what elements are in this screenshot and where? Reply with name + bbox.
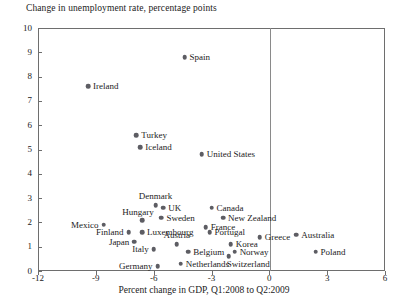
y-tick-mark xyxy=(38,198,42,199)
data-point-label: Austria xyxy=(164,231,191,240)
y-tick-mark xyxy=(38,52,42,53)
data-point xyxy=(151,247,156,252)
data-point-label: Netherlands xyxy=(186,259,229,268)
y-tick-mark xyxy=(38,247,42,248)
data-point xyxy=(182,55,187,60)
data-point-label: Greece xyxy=(265,232,290,241)
data-point-label: Germany xyxy=(119,262,153,271)
y-tick-label: 4 xyxy=(10,169,32,178)
data-point-label: Belgium xyxy=(193,247,224,256)
data-point-label: Canada xyxy=(217,203,244,212)
data-point-label: Norway xyxy=(240,247,269,256)
data-point-label: Iceland xyxy=(145,143,171,152)
y-tick-label: 8 xyxy=(10,72,32,81)
data-point-label: Portugal xyxy=(215,228,246,237)
data-point xyxy=(203,225,208,230)
data-point xyxy=(159,215,164,220)
x-tick-label: -6 xyxy=(139,274,169,283)
data-point xyxy=(86,84,91,89)
x-tick-label: -9 xyxy=(81,274,111,283)
y-tick-label: 6 xyxy=(10,121,32,130)
data-point xyxy=(209,206,214,211)
data-point xyxy=(221,215,226,220)
data-point-label: Hungary xyxy=(122,207,154,216)
chart-title: Change in unemployment rate, percentage … xyxy=(26,3,217,13)
data-point-label: Finland xyxy=(96,228,124,237)
data-point xyxy=(313,249,318,254)
data-point xyxy=(186,249,191,254)
data-point xyxy=(140,218,145,223)
data-point xyxy=(178,261,183,266)
y-tick-label: 2 xyxy=(10,218,32,227)
data-point-label: Turkey xyxy=(141,130,167,139)
y-tick-label: 9 xyxy=(10,48,32,57)
data-point-label: Mexico xyxy=(71,220,99,229)
data-point xyxy=(134,133,139,138)
y-tick-mark xyxy=(38,77,42,78)
data-point-label: United States xyxy=(207,150,255,159)
x-axis-title: Percent change in GDP, Q1:2008 to Q2:200… xyxy=(0,285,408,295)
data-point-label: Denmark xyxy=(139,192,173,201)
y-tick-label: 5 xyxy=(10,145,32,154)
data-point-label: Spain xyxy=(190,53,211,62)
x-tick-label: 0 xyxy=(254,274,284,283)
data-point xyxy=(232,249,237,254)
y-tick-label: 10 xyxy=(10,24,32,33)
data-point-label: Sweden xyxy=(166,213,195,222)
y-tick-mark xyxy=(38,174,42,175)
x-tick-label: -12 xyxy=(23,274,53,283)
x-tick-label: 3 xyxy=(312,274,342,283)
y-tick-mark xyxy=(38,101,42,102)
data-point-label: Poland xyxy=(321,247,346,256)
y-tick-label: 1 xyxy=(10,242,32,251)
data-point xyxy=(138,145,143,150)
data-point xyxy=(294,232,299,237)
data-point-label: Ireland xyxy=(93,82,118,91)
y-tick-mark xyxy=(38,125,42,126)
data-point xyxy=(207,230,212,235)
x-tick-label: -3 xyxy=(197,274,227,283)
data-point xyxy=(228,242,233,247)
data-point xyxy=(161,206,166,211)
data-point-label: New Zealand xyxy=(228,213,276,222)
data-point-label: Japan xyxy=(109,237,130,246)
data-point xyxy=(155,264,160,269)
data-point-label: UK xyxy=(168,203,181,212)
y-tick-mark xyxy=(38,150,42,151)
data-point-label: Switzerland xyxy=(227,260,270,269)
y-tick-mark xyxy=(38,28,42,29)
y-tick-label: 3 xyxy=(10,194,32,203)
data-point xyxy=(257,235,262,240)
data-point xyxy=(140,230,145,235)
y-tick-mark xyxy=(38,222,42,223)
y-tick-label: 7 xyxy=(10,96,32,105)
data-point xyxy=(175,242,180,247)
data-point-label: Italy xyxy=(132,245,149,254)
data-point xyxy=(200,152,205,157)
data-point xyxy=(126,230,131,235)
data-point-label: Australia xyxy=(301,230,334,239)
x-tick-label: 6 xyxy=(370,274,400,283)
